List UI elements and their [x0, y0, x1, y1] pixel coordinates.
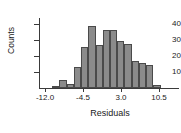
x-axis-tick: [159, 88, 160, 92]
plot-area: [45, 5, 175, 88]
histogram-bar: [52, 86, 59, 88]
histogram-bar: [124, 44, 131, 88]
y-axis-title: Counts: [7, 19, 16, 63]
x-tick-label: 10.5: [142, 94, 176, 102]
histogram-bar: [59, 80, 66, 88]
histogram-bar: [103, 30, 110, 88]
x-tick-label: 3.0: [104, 94, 138, 102]
histogram-bar: [132, 61, 139, 88]
x-axis-tick: [121, 88, 122, 92]
histogram-bar: [146, 65, 153, 88]
x-axis-title: Residuals: [40, 108, 180, 118]
x-tick-label: -12.0: [28, 94, 62, 102]
histogram-figure: Counts 40 30 20 10 -12.0 -4.5 3.0 10.5 R…: [0, 0, 181, 133]
histogram-bar: [110, 30, 117, 88]
histogram-bar: [96, 45, 103, 88]
histogram-bar: [67, 84, 74, 88]
histogram-bar: [74, 67, 81, 88]
x-axis-tick: [45, 88, 46, 92]
y-axis-line: [39, 18, 40, 89]
histogram-bar: [81, 47, 88, 89]
x-tick-label: -4.5: [66, 94, 100, 102]
histogram-bar: [139, 63, 146, 88]
histogram-bar: [88, 26, 95, 88]
x-axis-tick: [83, 88, 84, 92]
x-axis-line: [39, 88, 179, 89]
histogram-bar: [117, 41, 124, 88]
